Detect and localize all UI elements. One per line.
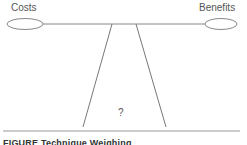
fulcrum-left-leg — [83, 24, 112, 127]
balance-diagram: Costs Benefits ? FIGURE Technique Weighi… — [0, 0, 247, 145]
balance-scale-graphic — [0, 0, 247, 145]
figure-caption: FIGURE Technique Weighing — [3, 138, 132, 145]
costs-pan — [7, 19, 43, 30]
fulcrum-question-mark: ? — [118, 107, 124, 118]
benefits-label: Benefits — [199, 3, 235, 13]
costs-label: Costs — [11, 3, 37, 13]
benefits-pan — [205, 19, 237, 30]
fulcrum-right-leg — [136, 24, 166, 127]
